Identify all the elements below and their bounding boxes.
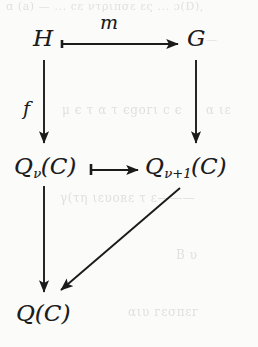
node-q-nu-plus-1-c: Qν+1(C) xyxy=(145,155,226,178)
node-q-nu-c-argument: (C) xyxy=(41,153,77,179)
node-q-nu-plus-1-c-subscript: ν+1 xyxy=(164,166,191,181)
arrow-m xyxy=(62,40,178,48)
arrow-label-m: m xyxy=(100,13,118,32)
node-q-nu-plus-1-c-base: Q xyxy=(145,153,164,179)
arrow-qv-to-qv1 xyxy=(91,164,138,175)
node-q-nu-c-base: Q xyxy=(14,153,33,179)
arrow-label-f: f xyxy=(23,99,30,118)
node-q-c-base: Q xyxy=(16,300,35,326)
node-q-nu-c-subscript: ν xyxy=(33,166,41,181)
node-q-nu-plus-1-c-argument: (C) xyxy=(191,153,227,179)
node-h: H xyxy=(33,27,53,50)
node-q-c: Q(C) xyxy=(16,302,70,325)
node-g: G xyxy=(187,27,205,50)
node-h-label: H xyxy=(33,25,53,51)
node-q-nu-c: Qν(C) xyxy=(14,155,76,178)
node-q-c-argument: (C) xyxy=(35,300,71,326)
node-g-label: G xyxy=(187,25,205,51)
arrow-qv1-to-q xyxy=(61,188,180,290)
diagram-page: ɑ (a) — ... cε ντριπσε ες ... ɔ(D), — μ … xyxy=(0,0,258,347)
